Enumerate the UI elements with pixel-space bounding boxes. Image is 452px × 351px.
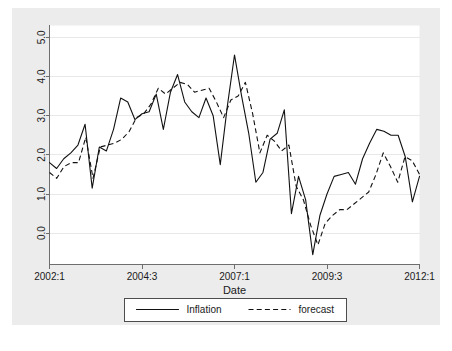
- chart-svg: 0.01.02.03.04.05.0 2002:12004:32007:1200…: [0, 0, 452, 351]
- legend-label-inflation: Inflation: [187, 304, 222, 315]
- x-axis-tick-label: 2007:1: [219, 271, 250, 282]
- chart-plot-area: 0.01.02.03.04.05.0 2002:12004:32007:1200…: [0, 0, 452, 351]
- y-axis-tick-label: 5.0: [36, 30, 47, 44]
- y-axis-tick-label: 2.0: [36, 147, 47, 161]
- plot-background: [50, 26, 420, 265]
- y-axis-tick-label: 3.0: [36, 108, 47, 122]
- x-axis-ticks: 2002:12004:32007:12009:32012:1: [34, 265, 435, 282]
- legend-label-forecast: forecast: [299, 304, 335, 315]
- y-axis-tick-label: 0.0: [36, 226, 47, 240]
- x-axis-tick-label: 2004:3: [127, 271, 158, 282]
- y-axis-ticks: 0.01.02.03.04.05.0: [36, 30, 50, 240]
- x-axis-title: Date: [223, 284, 246, 296]
- y-axis-tick-label: 1.0: [36, 187, 47, 201]
- y-axis-tick-label: 4.0: [36, 69, 47, 83]
- chart-legend: Inflationforecast: [125, 298, 347, 321]
- chart-figure: 0.01.02.03.04.05.0 2002:12004:32007:1200…: [0, 0, 452, 351]
- x-axis-tick-label: 2009:3: [312, 271, 343, 282]
- x-axis-tick-label: 2012:1: [404, 271, 435, 282]
- x-axis-tick-label: 2002:1: [34, 271, 65, 282]
